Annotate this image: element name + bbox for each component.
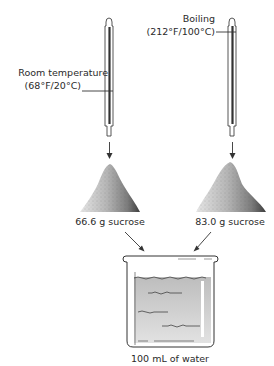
room-temperature-label: Room temperature: [10, 67, 108, 78]
right-arrow-diagonal-icon: [194, 232, 212, 252]
left-sucrose-label: 66.6 g sucrose: [62, 216, 158, 227]
right-sucrose-pile-icon: [196, 162, 266, 212]
left-sucrose-pile-icon: [80, 164, 140, 212]
boiling-label: Boiling: [140, 13, 215, 24]
left-arrow-diagonal-icon: [125, 232, 145, 252]
beaker-label: 100 mL of water: [120, 353, 220, 364]
right-arrow-down-icon: [230, 142, 236, 159]
right-sucrose-label: 83.0 g sucrose: [182, 216, 274, 227]
room-temperature-value: (68°F/20°C): [10, 80, 81, 91]
right-thermometer-icon: [216, 18, 236, 136]
diagram-canvas: [0, 0, 274, 366]
boiling-value: (212°F/100°C): [140, 26, 215, 37]
left-arrow-down-icon: [107, 142, 113, 159]
beaker-icon: [123, 256, 218, 347]
